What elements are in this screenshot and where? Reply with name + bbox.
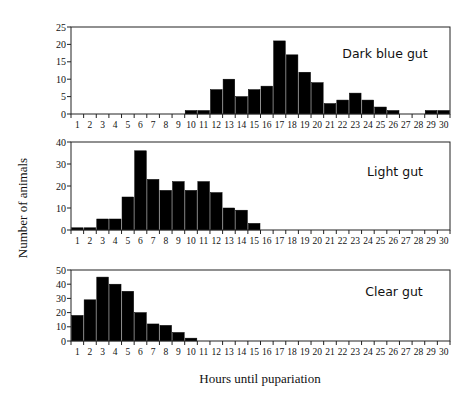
x-tick-label: 7 (151, 347, 156, 357)
x-tick-label: 17 (275, 236, 285, 246)
bar (173, 182, 185, 230)
x-tick-label: 28 (414, 236, 424, 246)
x-tick-label: 14 (237, 347, 247, 357)
x-tick-label: 25 (376, 120, 386, 130)
panel-title: Clear gut (365, 284, 423, 299)
x-tick-label: 29 (426, 347, 436, 357)
x-tick-label: 6 (138, 120, 143, 130)
bar (248, 223, 260, 230)
bar (84, 300, 96, 341)
bar (97, 277, 109, 341)
histogram-figure: 0510152025123456789101112131415161718192… (0, 0, 473, 398)
panel-title: Dark blue gut (342, 46, 427, 61)
x-tick-label: 23 (351, 236, 361, 246)
y-tick-label: 30 (56, 159, 66, 170)
x-tick-label: 19 (300, 236, 310, 246)
x-tick-label: 11 (199, 120, 208, 130)
bar (97, 219, 109, 230)
x-tick-label: 3 (100, 347, 105, 357)
x-tick-label: 24 (363, 347, 373, 357)
y-tick-label: 20 (56, 307, 66, 318)
x-tick-label: 22 (338, 236, 348, 246)
x-tick-label: 18 (287, 120, 297, 130)
x-tick-label: 26 (388, 120, 398, 130)
x-tick-label: 30 (439, 347, 449, 357)
panel-dark-blue-gut: 0510152025123456789101112131415161718192… (56, 22, 450, 131)
x-tick-label: 9 (176, 236, 181, 246)
x-tick-label: 10 (186, 120, 196, 130)
y-tick-label: 40 (56, 137, 66, 148)
x-tick-label: 4 (113, 120, 118, 130)
y-tick-label: 40 (56, 279, 66, 290)
bar (72, 315, 84, 341)
x-tick-label: 5 (125, 236, 130, 246)
x-tick-label: 11 (199, 236, 208, 246)
x-tick-label: 1 (75, 347, 80, 357)
x-tick-label: 15 (249, 236, 259, 246)
x-tick-label: 25 (376, 347, 386, 357)
bar (349, 93, 361, 114)
x-tick-label: 8 (163, 236, 168, 246)
bar (109, 284, 121, 341)
x-tick-label: 1 (75, 236, 80, 246)
x-tick-label: 22 (338, 120, 348, 130)
x-tick-label: 14 (237, 120, 247, 130)
x-tick-label: 24 (363, 236, 373, 246)
bar (324, 104, 336, 114)
x-tick-label: 3 (100, 236, 105, 246)
y-tick-label: 20 (56, 39, 66, 50)
y-tick-label: 20 (56, 181, 66, 192)
bar (425, 111, 437, 114)
bar (274, 41, 286, 114)
x-tick-label: 16 (262, 236, 272, 246)
x-tick-label: 18 (287, 347, 297, 357)
x-tick-label: 8 (163, 120, 168, 130)
x-tick-label: 5 (125, 120, 130, 130)
x-tick-label: 8 (163, 347, 168, 357)
bar (185, 190, 197, 230)
x-tick-label: 13 (224, 120, 234, 130)
x-tick-label: 23 (351, 347, 361, 357)
y-tick-label: 15 (56, 56, 66, 67)
x-tick-label: 30 (439, 236, 449, 246)
bar (210, 90, 222, 114)
bar (375, 107, 387, 114)
x-tick-label: 27 (401, 347, 411, 357)
bar (147, 324, 159, 341)
bar (312, 83, 324, 114)
x-tick-label: 19 (300, 347, 310, 357)
bar (223, 208, 235, 230)
x-tick-label: 1 (75, 120, 80, 130)
bar (236, 210, 248, 230)
x-tick-label: 9 (176, 120, 181, 130)
x-tick-label: 12 (212, 120, 222, 130)
bar (122, 291, 134, 341)
x-tick-label: 27 (401, 120, 411, 130)
x-tick-label: 21 (325, 120, 335, 130)
x-tick-label: 14 (237, 236, 247, 246)
panel-clear-gut: 0102030405012345678910111213141516171819… (56, 265, 450, 358)
x-tick-label: 26 (388, 347, 398, 357)
y-tick-label: 10 (56, 203, 66, 214)
y-tick-label: 0 (61, 225, 66, 236)
bar (286, 55, 298, 114)
x-tick-label: 20 (313, 236, 323, 246)
bar (173, 332, 185, 341)
x-tick-label: 5 (125, 347, 130, 357)
panel-title: Light gut (367, 164, 423, 179)
bar (122, 197, 134, 230)
x-tick-label: 27 (401, 236, 411, 246)
x-tick-label: 18 (287, 236, 297, 246)
x-tick-label: 29 (426, 120, 436, 130)
bar (438, 111, 450, 114)
panel-light-gut: 0102030401234567891011121314151617181920… (56, 137, 450, 247)
x-tick-label: 15 (249, 120, 259, 130)
y-tick-label: 0 (61, 336, 66, 347)
x-tick-label: 30 (439, 120, 449, 130)
y-tick-label: 5 (61, 91, 66, 102)
bar (248, 90, 260, 114)
x-tick-label: 21 (325, 236, 335, 246)
y-tick-label: 50 (56, 265, 66, 276)
bar (135, 313, 147, 341)
x-tick-label: 2 (88, 347, 93, 357)
